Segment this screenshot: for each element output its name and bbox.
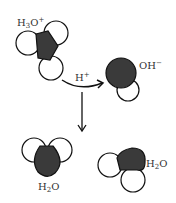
water-molecule-right — [98, 148, 145, 192]
water-right-label: H2O — [146, 159, 167, 171]
reaction-diagram — [0, 0, 176, 203]
hydroxide-label: OH− — [139, 60, 162, 71]
hydroxide-molecule — [106, 58, 139, 101]
water-molecule-left — [22, 138, 72, 176]
hydronium-label: H3O+ — [17, 17, 44, 30]
proton-label: H+ — [75, 72, 90, 83]
water-left-label: H2O — [38, 182, 59, 194]
